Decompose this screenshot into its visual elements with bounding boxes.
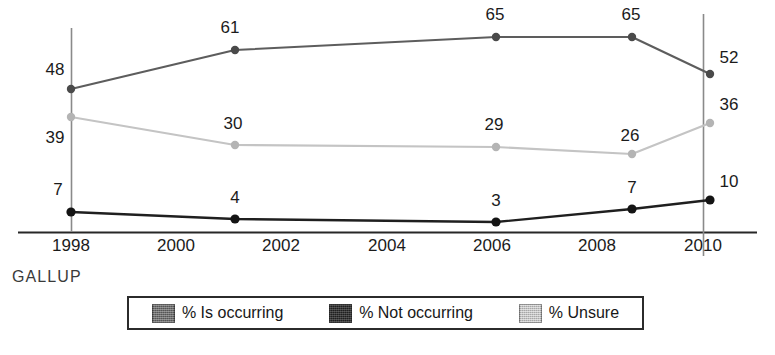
x-axis-tick-2010: 2010 [684, 236, 722, 256]
series-line-not-occurring [71, 200, 710, 222]
chart-legend: % Is occurring % Not occurring % Unsure [127, 296, 644, 330]
point-label-unsure-2008: 26 [621, 126, 640, 146]
x-axis-tick-2006: 2006 [473, 236, 511, 256]
x-axis-tick-2008: 2008 [578, 236, 616, 256]
legend-label-unsure: % Unsure [549, 304, 619, 322]
legend-item-is-occurring[interactable]: % Is occurring [152, 304, 283, 323]
legend-label-not-occurring: % Not occurring [359, 304, 473, 322]
point-label-is-occurring-1998: 48 [46, 60, 65, 80]
point-label-not-occurring-2010: 10 [720, 172, 739, 192]
x-axis-tick-2002: 2002 [262, 236, 300, 256]
legend-swatch-unsure-icon [519, 304, 542, 323]
legend-item-not-occurring[interactable]: % Not occurring [329, 304, 473, 323]
point-label-not-occurring-1998: 7 [53, 180, 62, 200]
point-label-unsure-2001: 30 [224, 114, 243, 134]
legend-item-unsure[interactable]: % Unsure [519, 304, 619, 323]
point-label-is-occurring-2006: 65 [486, 5, 505, 25]
series-line-is-occurring [71, 37, 710, 89]
point-label-not-occurring-2001: 4 [230, 188, 239, 208]
legend-swatch-not-occurring-icon [329, 304, 352, 323]
legend-swatch-is-occurring-icon [152, 304, 175, 323]
series-markers-unsure [67, 113, 714, 158]
x-axis-tick-1998: 1998 [52, 236, 90, 256]
legend-label-is-occurring: % Is occurring [182, 304, 283, 322]
point-label-unsure-1998: 39 [46, 128, 65, 148]
series-line-unsure [71, 117, 710, 154]
point-label-not-occurring-2008: 7 [627, 178, 636, 198]
point-label-not-occurring-2006: 3 [491, 191, 500, 211]
gallup-brand-label: GALLUP [12, 268, 82, 286]
point-label-is-occurring-2001: 61 [221, 18, 240, 38]
x-axis-tick-2004: 2004 [368, 236, 406, 256]
point-label-is-occurring-2008: 65 [622, 5, 641, 25]
point-label-unsure-2010: 36 [720, 95, 739, 115]
point-label-unsure-2006: 29 [485, 115, 504, 135]
x-axis-tick-2000: 2000 [157, 236, 195, 256]
point-label-is-occurring-2010: 52 [720, 48, 739, 68]
